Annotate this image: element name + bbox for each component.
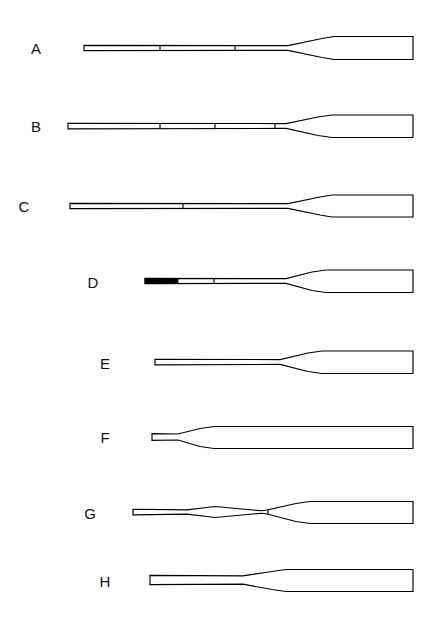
specimen-label-b: B	[31, 118, 41, 135]
specimen-label-d: D	[88, 274, 99, 291]
oar-solid-grip-d	[145, 278, 178, 283]
specimen-label-a: A	[31, 40, 41, 57]
specimen-label-h: H	[100, 573, 111, 590]
specimen-label-g: G	[84, 505, 96, 522]
oar-typology-plate: ABCDEFGH	[0, 0, 433, 624]
specimen-label-c: C	[19, 198, 30, 215]
plate-background	[0, 0, 433, 624]
specimen-label-f: F	[100, 429, 109, 446]
specimen-label-e: E	[100, 355, 110, 372]
